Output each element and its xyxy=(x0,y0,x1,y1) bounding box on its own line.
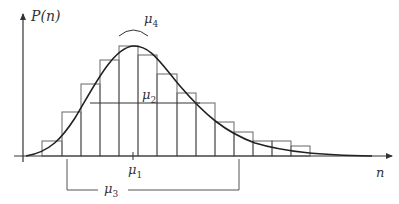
mu1-label: μ1 xyxy=(128,163,142,180)
histogram-bar xyxy=(177,93,196,156)
histogram-bar xyxy=(196,103,215,156)
mu4-label: μ4 xyxy=(144,12,158,29)
mu3-bracket xyxy=(67,159,239,190)
histogram-bar xyxy=(42,141,62,156)
histogram-bars xyxy=(42,46,310,156)
y-axis-label: P(n) xyxy=(31,9,60,23)
histogram-diagram xyxy=(0,0,399,204)
x-axis-label: n xyxy=(376,166,384,179)
mu3-label: μ3 xyxy=(104,182,118,199)
histogram-bar xyxy=(100,60,119,156)
histogram-bar xyxy=(138,55,157,156)
histogram-bar xyxy=(81,84,100,156)
mu4-arc xyxy=(119,30,148,36)
histogram-bar xyxy=(119,46,138,156)
mu2-label: μ2 xyxy=(142,88,156,105)
histogram-bar xyxy=(62,112,81,156)
distribution-curve xyxy=(26,46,372,156)
histogram-bar xyxy=(157,74,177,156)
